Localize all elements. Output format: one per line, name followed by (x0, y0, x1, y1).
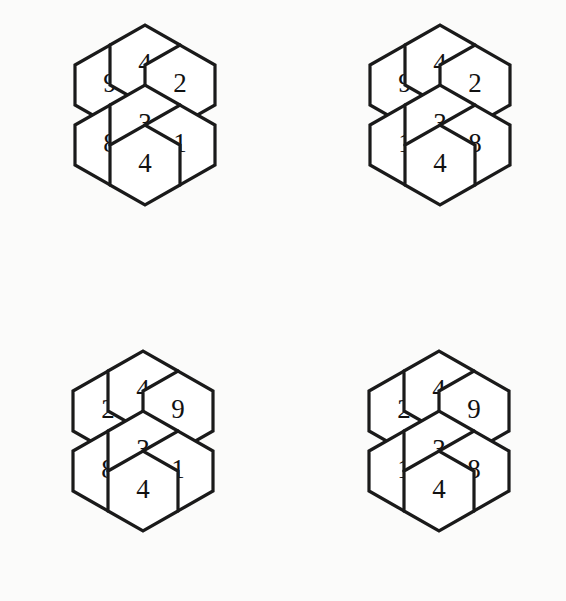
hex-cluster-top-left[interactable]: 9 4 2 8 3 1 4 (40, 28, 246, 246)
hex-cell-bottom-label: 4 (432, 474, 446, 504)
hex-cluster-bottom-left[interactable]: 2 4 9 8 3 1 4 (38, 354, 244, 572)
hex-cluster-top-right[interactable]: 9 4 2 1 3 8 4 (335, 28, 541, 246)
hex-cell-upper-right-label: 2 (468, 68, 482, 98)
hex-cell-upper-right-label: 9 (171, 394, 185, 424)
hex-cluster-bottom-left-svg: 2 4 9 8 3 1 4 (38, 354, 244, 572)
hex-cluster-bottom-right[interactable]: 2 4 9 1 3 8 4 (334, 354, 540, 572)
hex-cell-upper-right-label: 2 (173, 68, 187, 98)
hex-cell-upper-right-label: 9 (467, 394, 481, 424)
hex-cluster-top-left-svg: 9 4 2 8 3 1 4 (40, 28, 246, 246)
hex-cluster-top-right-svg: 9 4 2 1 3 8 4 (335, 28, 541, 246)
hex-cell-bottom-label: 4 (138, 148, 152, 178)
hex-cluster-bottom-right-svg: 2 4 9 1 3 8 4 (334, 354, 540, 572)
hex-cell-bottom-label: 4 (136, 474, 150, 504)
puzzle-sheet: 9 4 2 8 3 1 4 (0, 0, 566, 601)
hex-cell-bottom-label: 4 (433, 148, 447, 178)
